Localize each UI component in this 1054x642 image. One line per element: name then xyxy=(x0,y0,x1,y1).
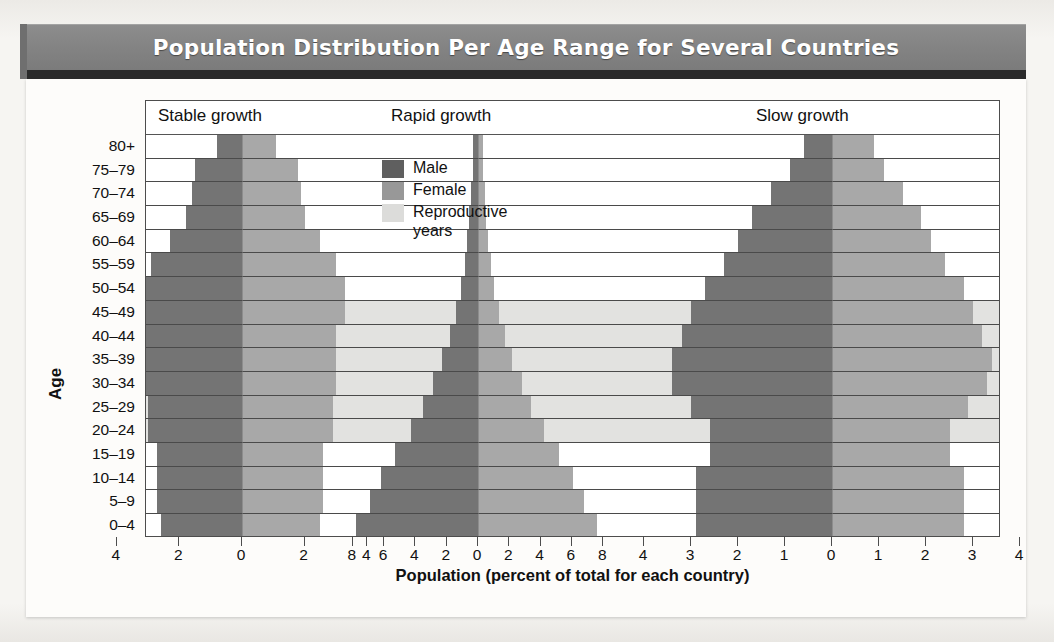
bar-female xyxy=(478,253,491,276)
x-axis-tick-label: 2 xyxy=(504,546,513,564)
bar-female xyxy=(242,514,320,537)
table-row xyxy=(146,135,999,159)
bar-female xyxy=(832,230,931,253)
table-row xyxy=(146,206,999,230)
x-axis-tick-label: 3 xyxy=(968,546,977,564)
bar-female xyxy=(242,396,333,419)
legend-label-male: Male xyxy=(413,158,448,177)
bar-female xyxy=(478,348,512,371)
y-axis-label-40-44: 40–44 xyxy=(56,324,142,348)
x-axis-tick xyxy=(304,537,305,546)
legend-item-male: Male xyxy=(382,158,507,178)
x-axis-tick-label: 2 xyxy=(733,546,742,564)
x-axis-title: Population (percent of total for each co… xyxy=(145,566,1000,585)
bar-female xyxy=(242,159,298,182)
bar-male xyxy=(461,277,478,300)
bar-female xyxy=(478,301,499,324)
x-axis-tick xyxy=(477,537,478,546)
x-axis-tick-label: 0 xyxy=(473,546,482,564)
panel-captions: Stable growthRapid growthSlow growth xyxy=(146,101,999,135)
x-axis-tick xyxy=(241,537,242,546)
x-axis-tick xyxy=(178,537,179,546)
bar-male xyxy=(157,490,242,513)
bar-male xyxy=(145,325,242,348)
bar-male xyxy=(356,514,478,537)
bar-female xyxy=(242,490,323,513)
panel-caption-slow-growth: Slow growth xyxy=(756,106,849,126)
bar-female xyxy=(478,277,494,300)
table-row xyxy=(146,301,999,325)
y-axis-label-55-59: 55–59 xyxy=(56,252,142,276)
x-axis-tick-label: 4 xyxy=(362,546,371,564)
bar-female xyxy=(242,206,305,229)
bar-male xyxy=(381,467,478,490)
bar-female xyxy=(832,372,987,395)
x-axis-tick xyxy=(1019,537,1020,546)
bar-male xyxy=(696,514,832,537)
y-axis-label-75-79: 75–79 xyxy=(56,158,142,182)
bar-female xyxy=(832,467,964,490)
x-axis-tick-label: 0 xyxy=(827,546,836,564)
bar-female xyxy=(478,490,584,513)
y-axis-label-35-39: 35–39 xyxy=(56,347,142,371)
chart-title-bar: Population Distribution Per Age Range fo… xyxy=(26,24,1026,70)
bar-female xyxy=(242,135,276,158)
bar-male xyxy=(724,253,832,276)
bar-male xyxy=(217,135,242,158)
page-title: Population Distribution Per Age Range fo… xyxy=(153,35,899,60)
bar-female xyxy=(832,277,964,300)
table-row xyxy=(146,396,999,420)
bar-male xyxy=(423,396,478,419)
x-axis-tick xyxy=(366,537,367,546)
bar-female xyxy=(832,135,874,158)
x-axis-tick-label: 4 xyxy=(410,546,419,564)
x-axis-tick-label: 8 xyxy=(598,546,607,564)
bar-female xyxy=(478,443,559,466)
bar-male xyxy=(738,230,832,253)
bar-female xyxy=(832,325,982,348)
y-axis-label-25-29: 25–29 xyxy=(56,395,142,419)
bar-male xyxy=(691,301,832,324)
x-axis-tick-label: 4 xyxy=(112,546,121,564)
x-axis-tick xyxy=(571,537,572,546)
x-axis-tick-label: 4 xyxy=(639,546,648,564)
bar-male xyxy=(696,490,832,513)
table-row xyxy=(146,490,999,514)
table-row xyxy=(146,372,999,396)
bar-male xyxy=(450,325,478,348)
y-axis-label-80+: 80+ xyxy=(56,134,142,158)
x-axis-tick-label: 1 xyxy=(780,546,789,564)
bar-female xyxy=(832,348,992,371)
bar-male xyxy=(804,135,832,158)
bar-female xyxy=(242,325,336,348)
x-axis-tick xyxy=(414,537,415,546)
bar-female xyxy=(832,490,964,513)
bar-male xyxy=(433,372,478,395)
bar-female xyxy=(478,514,597,537)
y-axis-label-30-34: 30–34 xyxy=(56,371,142,395)
x-axis: 42024864202468432101234 xyxy=(145,537,1000,563)
y-axis-label-60-64: 60–64 xyxy=(56,229,142,253)
bar-male xyxy=(710,443,832,466)
bar-female xyxy=(478,419,544,442)
bar-female xyxy=(242,301,345,324)
bar-male xyxy=(145,277,242,300)
x-axis-tick-label: 2 xyxy=(299,546,308,564)
x-axis-tick xyxy=(352,537,353,546)
bar-female xyxy=(242,277,345,300)
bar-male xyxy=(465,253,478,276)
x-axis-tick xyxy=(925,537,926,546)
bar-female xyxy=(242,253,336,276)
bar-male xyxy=(395,443,478,466)
x-axis-tick-label: 4 xyxy=(1015,546,1024,564)
bar-female xyxy=(832,419,950,442)
plot-area: Stable growthRapid growthSlow growth Mal… xyxy=(145,100,1000,537)
x-axis-tick xyxy=(602,537,603,546)
x-axis-tick xyxy=(784,537,785,546)
bar-male xyxy=(145,372,242,395)
x-axis-tick xyxy=(831,537,832,546)
x-axis-tick xyxy=(540,537,541,546)
legend: MaleFemaleReproductive years xyxy=(382,158,507,242)
bar-male xyxy=(696,467,832,490)
x-axis-tick-label: 2 xyxy=(174,546,183,564)
